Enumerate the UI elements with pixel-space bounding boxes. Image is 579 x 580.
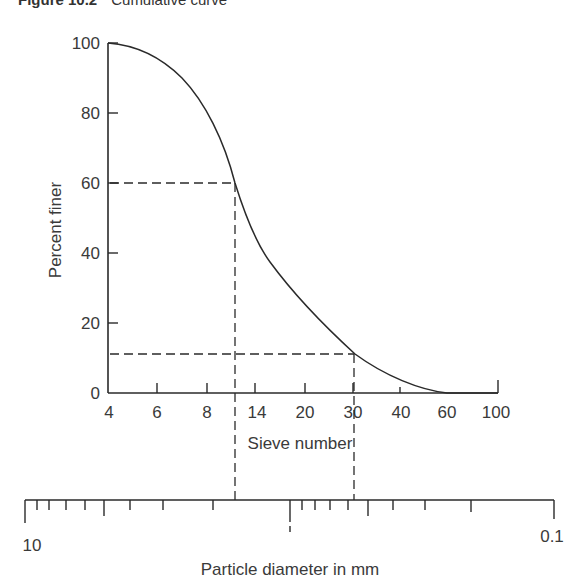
diameter-left-label: 10 bbox=[23, 536, 42, 555]
y-tick-label: 40 bbox=[81, 244, 100, 263]
y-axis-label: Percent finer bbox=[46, 181, 65, 278]
cumulative-curve-chart: 100 80 60 40 20 0 Percent finer 4 6 8 14… bbox=[0, 0, 579, 580]
cumulative-curve bbox=[108, 43, 498, 393]
diameter-axis-label: Particle diameter in mm bbox=[201, 560, 380, 579]
x-tick-label: 30 bbox=[344, 403, 363, 422]
x-tick-label: 6 bbox=[152, 403, 161, 422]
y-tick-label: 80 bbox=[81, 104, 100, 123]
y-tick-labels: 100 80 60 40 20 0 bbox=[72, 34, 100, 403]
x-tick-label: 60 bbox=[438, 403, 457, 422]
x-ticks bbox=[157, 380, 498, 393]
y-tick-label: 60 bbox=[81, 174, 100, 193]
x-axis-label: Sieve number bbox=[248, 434, 353, 453]
x-tick-label: 8 bbox=[202, 403, 211, 422]
x-tick-label: 100 bbox=[482, 403, 510, 422]
diameter-ticks bbox=[25, 500, 554, 532]
y-tick-label: 0 bbox=[91, 384, 100, 403]
x-tick-labels: 4 6 8 14 20 30 40 60 100 bbox=[104, 403, 510, 422]
y-tick-label: 100 bbox=[72, 34, 100, 53]
x-tick-label: 20 bbox=[296, 403, 315, 422]
y-tick-label: 20 bbox=[81, 314, 100, 333]
x-tick-label: 40 bbox=[392, 403, 411, 422]
x-tick-label: 4 bbox=[104, 403, 113, 422]
x-tick-label: 14 bbox=[248, 403, 267, 422]
diameter-right-label: 0.1 bbox=[540, 527, 564, 546]
